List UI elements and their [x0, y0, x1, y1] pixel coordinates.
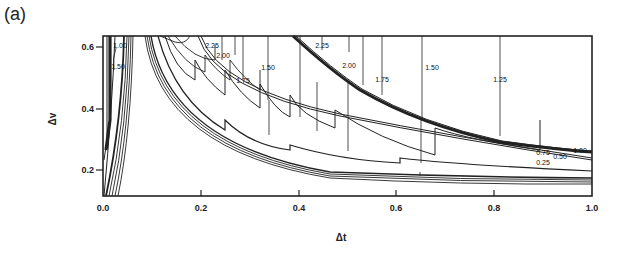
y-axis-label: Δv — [47, 112, 58, 125]
contour-label: 2.00 — [216, 52, 230, 59]
x-tick-0.6: 0.6 — [390, 203, 403, 213]
x-axis: 0.0 0.2 0.4 0.6 0.8 1.0 Δt — [97, 190, 599, 243]
contour-label: 2.25 — [315, 42, 329, 49]
contour-label: 0.75 — [536, 149, 550, 156]
contour-label: 0.50 — [553, 153, 567, 160]
contour-label: 1.50 — [261, 64, 275, 71]
contour-label: 1.00 — [573, 147, 587, 154]
contour-label: 1.50 — [425, 64, 439, 71]
y-tick-0.4: 0.4 — [81, 104, 94, 114]
contour-plot: 0.6 0.4 0.2 Δv 0.0 0.2 0.4 0.6 0.8 1.0 Δ… — [0, 0, 628, 257]
contour-label: 2.00 — [342, 62, 356, 69]
x-tick-1.0: 1.0 — [586, 203, 599, 213]
contour-label: 1.75 — [375, 76, 389, 83]
y-tick-0.6: 0.6 — [81, 42, 94, 52]
x-tick-0.2: 0.2 — [195, 203, 208, 213]
contour-label: 2.25 — [205, 42, 219, 49]
contour-label: 1.50 — [111, 63, 125, 70]
contour-label: 0.25 — [536, 159, 550, 166]
contour-label: 1.00 — [113, 42, 127, 49]
x-tick-0.4: 0.4 — [293, 203, 306, 213]
contour-lines — [104, 36, 592, 196]
x-tick-0.8: 0.8 — [488, 203, 501, 213]
y-axis: 0.6 0.4 0.2 Δv — [47, 42, 103, 175]
x-axis-label: Δt — [336, 232, 347, 243]
x-tick-0.0: 0.0 — [97, 203, 110, 213]
contour-label: 1.75 — [236, 77, 250, 84]
contour-label: 1.25 — [493, 76, 507, 83]
y-tick-0.2: 0.2 — [81, 165, 94, 175]
